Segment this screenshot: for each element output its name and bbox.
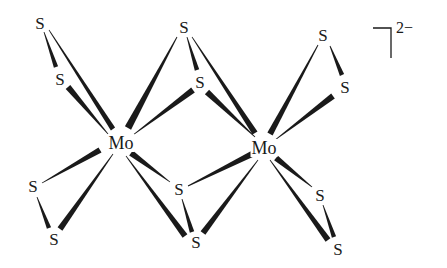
atom-mo-mo2: Mo	[250, 139, 277, 157]
atom-s-s_k: S	[314, 187, 325, 204]
bond-s_g-mo1	[42, 147, 102, 183]
atom-mo-mo1: Mo	[107, 134, 134, 152]
bond-s_c-mo1	[125, 37, 177, 130]
atom-s-s_h: S	[48, 231, 59, 248]
bond-mo2-s_k	[274, 156, 312, 188]
atom-s-s_a: S	[34, 15, 45, 32]
bond-s_j-mo2	[201, 160, 259, 235]
bond-s_i-s_j	[182, 199, 195, 233]
bond-s_e-mo2	[267, 45, 318, 136]
bond-mo1-s_i	[129, 151, 170, 183]
bond-s_a-s_b	[44, 32, 59, 68]
charge-bracket	[373, 28, 391, 58]
molecular-diagram	[0, 0, 447, 268]
atom-s-s_e: S	[317, 27, 328, 44]
atom-s-s_c: S	[178, 19, 189, 36]
bond-s_c-s_d	[187, 37, 200, 71]
bond-s_g-s_h	[37, 197, 52, 229]
bond-s_e-s_f	[330, 46, 345, 76]
atom-s-s_g: S	[27, 178, 38, 195]
charge-label: 2−	[396, 20, 413, 36]
bond-s_d-mo1	[133, 88, 195, 136]
atom-s-s_l: S	[332, 241, 343, 258]
bond-s_h-mo1	[58, 154, 114, 231]
atom-s-s_b: S	[54, 71, 65, 88]
atom-s-s_f: S	[339, 79, 350, 96]
bond-layer	[37, 30, 345, 242]
atom-s-s_d: S	[194, 74, 205, 91]
bond-s_i-mo2	[188, 151, 254, 186]
atom-s-s_j: S	[190, 234, 201, 251]
bracket-line	[373, 28, 391, 58]
bond-s_f-mo2	[275, 94, 335, 141]
atom-s-s_i: S	[173, 181, 184, 198]
